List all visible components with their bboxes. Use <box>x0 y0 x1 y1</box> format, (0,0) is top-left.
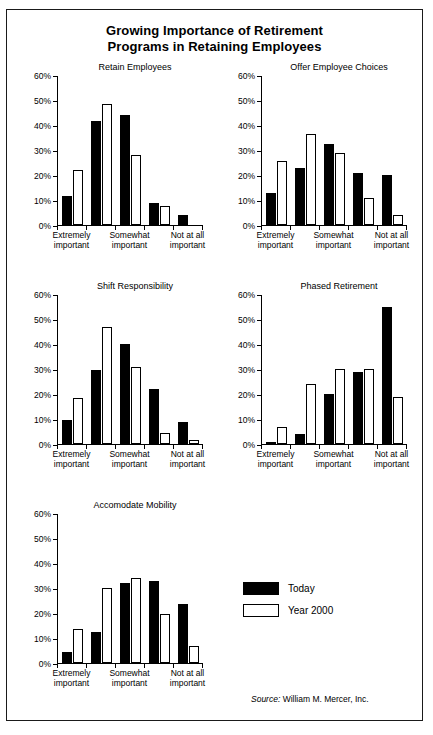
x-axis-label-line-2: important <box>109 459 149 469</box>
source-text: William M. Mercer, Inc. <box>280 694 368 704</box>
x-axis-label-line-2: important <box>374 459 409 469</box>
x-axis-label-line-1: Somewhat <box>313 230 353 240</box>
y-axis-tick <box>53 589 57 590</box>
y-axis-tick-label: 40% <box>238 340 255 350</box>
x-axis-label-line-1: Extremely <box>53 449 91 459</box>
y-axis-tick <box>53 395 57 396</box>
bar-today <box>120 115 131 225</box>
x-axis-label-line-1: Extremely <box>257 449 295 459</box>
legend-item-year-2000: Year 2000 <box>243 604 333 617</box>
bar-today <box>178 422 189 445</box>
figure-container: Growing Importance of Retirement Program… <box>6 9 423 721</box>
bar-today <box>353 372 364 445</box>
x-axis-label-line-1: Extremely <box>257 230 295 240</box>
x-axis-label-line-1: Somewhat <box>109 449 149 459</box>
legend-swatch-today <box>243 582 279 595</box>
bar-today <box>91 370 102 444</box>
bar-year-2000 <box>393 397 404 445</box>
y-axis-tick-label: 60% <box>34 509 51 519</box>
x-axis-label-line-1: Not at all <box>374 230 409 240</box>
bar-today <box>149 389 160 444</box>
y-axis-tick-label: 30% <box>34 146 51 156</box>
bar-year-2000 <box>189 440 200 444</box>
x-axis-label-line-1: Not at all <box>374 449 409 459</box>
bar-year-2000 <box>160 433 171 444</box>
y-axis-tick-label: 30% <box>238 146 255 156</box>
bar-today <box>149 203 160 226</box>
y-axis-tick-label: 20% <box>34 609 51 619</box>
y-axis-tick-label: 50% <box>238 315 255 325</box>
x-axis-label: Extremelyimportant <box>53 449 91 469</box>
bar-year-2000 <box>102 104 113 225</box>
y-axis-tick-label: 60% <box>34 290 51 300</box>
y-axis-tick <box>53 126 57 127</box>
chart-legend: Today Year 2000 <box>243 582 333 626</box>
bar-today <box>353 173 364 226</box>
x-axis-label-line-2: important <box>109 240 149 250</box>
x-axis-label: Not at allimportant <box>374 230 409 250</box>
y-axis-tick-label: 20% <box>238 390 255 400</box>
x-axis-label: Extremelyimportant <box>257 230 295 250</box>
x-axis-label-line-2: important <box>53 459 91 469</box>
plot-area: 0%10%20%30%40%50%60% <box>261 295 407 445</box>
bar-today <box>382 175 393 225</box>
bar-year-2000 <box>335 369 346 444</box>
x-axis-label: Extremelyimportant <box>53 230 91 250</box>
x-axis-label-line-1: Extremely <box>53 230 91 240</box>
y-axis-tick <box>257 320 261 321</box>
x-axis-label: Somewhatimportant <box>313 230 353 250</box>
plot-area: 0%10%20%30%40%50%60% <box>57 514 203 664</box>
y-axis-tick-label: 10% <box>34 196 51 206</box>
x-axis-label-line-2: important <box>170 459 205 469</box>
bar-group-container <box>58 76 203 225</box>
bar-year-2000 <box>306 384 317 444</box>
bar-year-2000 <box>73 170 84 225</box>
x-axis-label: Somewhatimportant <box>313 449 353 469</box>
x-axis-line <box>57 225 203 226</box>
y-axis-tick <box>257 370 261 371</box>
y-axis-tick-label: 10% <box>34 415 51 425</box>
x-axis-label-row: ExtremelyimportantSomewhatimportantNot a… <box>261 230 407 260</box>
y-axis-tick-label: 20% <box>34 390 51 400</box>
bar-today <box>266 442 277 445</box>
x-axis-label-line-1: Not at all <box>170 230 205 240</box>
x-axis-label-line-2: important <box>374 240 409 250</box>
y-axis-tick <box>53 564 57 565</box>
legend-label-year-2000: Year 2000 <box>288 605 333 616</box>
x-axis-line <box>57 663 203 664</box>
bar-year-2000 <box>393 215 404 225</box>
y-axis-tick-label: 40% <box>34 340 51 350</box>
x-axis-label-line-2: important <box>313 459 353 469</box>
bar-today <box>178 604 189 663</box>
bar-group-container <box>262 295 407 444</box>
chart-panel-1: Retain Employees0%10%20%30%40%50%60%Extr… <box>11 62 215 276</box>
y-axis-tick-label: 40% <box>238 121 255 131</box>
x-axis-label-line-1: Extremely <box>53 668 91 678</box>
chart-title: Offer Employee Choices <box>263 62 415 72</box>
bar-year-2000 <box>73 629 84 663</box>
bar-year-2000 <box>131 578 142 663</box>
y-axis-tick-label: 0% <box>39 221 51 231</box>
bar-year-2000 <box>335 153 346 226</box>
y-axis-tick <box>257 126 261 127</box>
x-axis-label: Somewhatimportant <box>109 230 149 250</box>
x-axis-label: Extremelyimportant <box>257 449 295 469</box>
y-axis-tick-label: 60% <box>34 71 51 81</box>
x-axis-line <box>261 444 407 445</box>
legend-label-today: Today <box>288 583 315 594</box>
y-axis-tick-label: 20% <box>34 171 51 181</box>
y-axis-tick <box>257 176 261 177</box>
y-axis-tick <box>257 420 261 421</box>
x-axis-label: Not at allimportant <box>170 668 205 688</box>
chart-title: Retain Employees <box>59 62 211 72</box>
bar-today <box>62 652 73 663</box>
y-axis-tick-label: 0% <box>243 221 255 231</box>
bar-year-2000 <box>277 161 288 225</box>
figure-title-line-2: Programs in Retaining Employees <box>7 39 422 55</box>
x-axis-label-line-1: Somewhat <box>109 668 149 678</box>
y-axis-tick-label: 30% <box>238 365 255 375</box>
y-axis-tick-label: 30% <box>34 365 51 375</box>
x-axis-label-line-2: important <box>257 240 295 250</box>
plot-area: 0%10%20%30%40%50%60% <box>261 76 407 226</box>
bar-year-2000 <box>306 134 317 225</box>
